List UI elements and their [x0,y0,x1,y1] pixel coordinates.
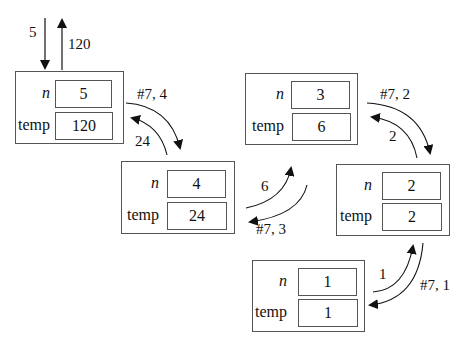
temp-label: temp [127,206,159,224]
n-value-cell: 4 [167,170,226,198]
n-value-cell: 1 [298,268,357,296]
temp-value-cell: 24 [167,202,227,230]
call-label-1: #7, 4 [137,86,167,103]
initial-argument-label: 5 [29,24,37,41]
return-label-1: 24 [135,133,150,150]
temp-value-cell: 1 [298,299,358,327]
n-label: n [276,85,284,103]
temp-value-cell: 120 [55,112,113,140]
temp-label: temp [252,117,284,135]
call-frame-4: n 1 temp 1 [252,260,365,332]
return-label-4: 1 [379,266,387,283]
call-label-4: #7, 1 [420,277,450,294]
call-arrow-4 [370,243,423,305]
temp-label: temp [255,303,287,321]
n-value-cell: 2 [382,172,441,200]
call-frame-0: n 5 temp 120 [15,71,124,144]
return-label-2: 6 [261,178,269,195]
n-value-cell: 5 [55,80,112,108]
call-frame-3: n 2 temp 2 [336,164,450,236]
return-label-3: 2 [389,128,397,145]
call-arrow-2 [250,185,307,222]
n-label: n [42,84,50,102]
temp-label: temp [18,116,50,134]
call-label-3: #7, 2 [380,86,410,103]
call-frame-1: n 4 temp 24 [121,161,235,234]
call-arrow-3 [367,103,430,153]
initial-return-label: 120 [68,36,91,53]
temp-label: temp [340,207,372,225]
n-label: n [279,272,287,290]
call-label-2: #7, 3 [256,221,286,238]
n-label: n [151,174,159,192]
call-frame-2: n 3 temp 6 [245,73,358,145]
n-label: n [364,176,372,194]
n-value-cell: 3 [291,81,350,109]
temp-value-cell: 2 [382,203,442,231]
temp-value-cell: 6 [292,113,351,141]
